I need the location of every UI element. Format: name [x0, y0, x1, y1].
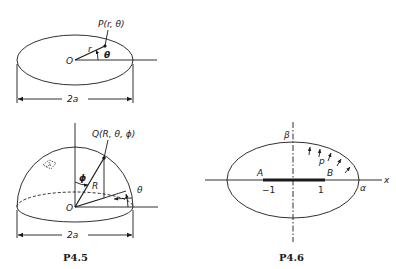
theta-label: θ — [137, 185, 143, 195]
base-front — [17, 207, 133, 222]
point-q-label: Q(R, θ, ϕ) — [92, 129, 135, 139]
theta-arc — [126, 194, 128, 207]
azimuth-ray — [104, 191, 126, 198]
theta-arrow — [114, 198, 132, 199]
surface-element — [43, 160, 56, 169]
angle-label: θ — [104, 50, 110, 60]
angle-arc — [96, 50, 98, 60]
phi-label: ϕ — [79, 173, 86, 183]
beta-label: β — [283, 130, 290, 140]
pointer-q — [104, 140, 108, 158]
origin-label: O — [66, 56, 73, 66]
dimension-label: 2a — [67, 94, 78, 104]
ellipse-crack-figure — [205, 122, 382, 242]
caption-p46: P4.6 — [279, 252, 304, 263]
pressure-arrow-1 — [309, 147, 310, 155]
point-q — [103, 157, 106, 160]
pressure-arrow-4 — [337, 159, 341, 166]
hemisphere-figure — [17, 123, 158, 238]
pointer-line — [105, 30, 108, 46]
point-b-label: B — [327, 168, 333, 178]
x-axis-label: x — [383, 175, 390, 185]
origin-label: O — [66, 203, 73, 213]
point-a-label: A — [256, 168, 263, 178]
pressure-arrow-5 — [345, 167, 350, 173]
tick-neg-label: −1 — [262, 185, 275, 195]
alpha-label: α — [360, 183, 366, 193]
plate-figure — [17, 30, 157, 103]
dimension-label: 2a — [67, 230, 78, 240]
point-p-label: P(r, θ) — [98, 19, 125, 29]
caption-p45: P4.5 — [63, 252, 88, 263]
tick-pos-label: 1 — [318, 185, 324, 195]
pressure-label: p — [318, 156, 325, 166]
diagram-canvas: P(r, θ) O r θ 2a Q(R, θ, ϕ) O R ϕ θ 2a P… — [0, 0, 396, 269]
radius-label: R — [92, 181, 98, 191]
pressure-arrow-3 — [328, 153, 331, 161]
point-p — [104, 45, 106, 47]
